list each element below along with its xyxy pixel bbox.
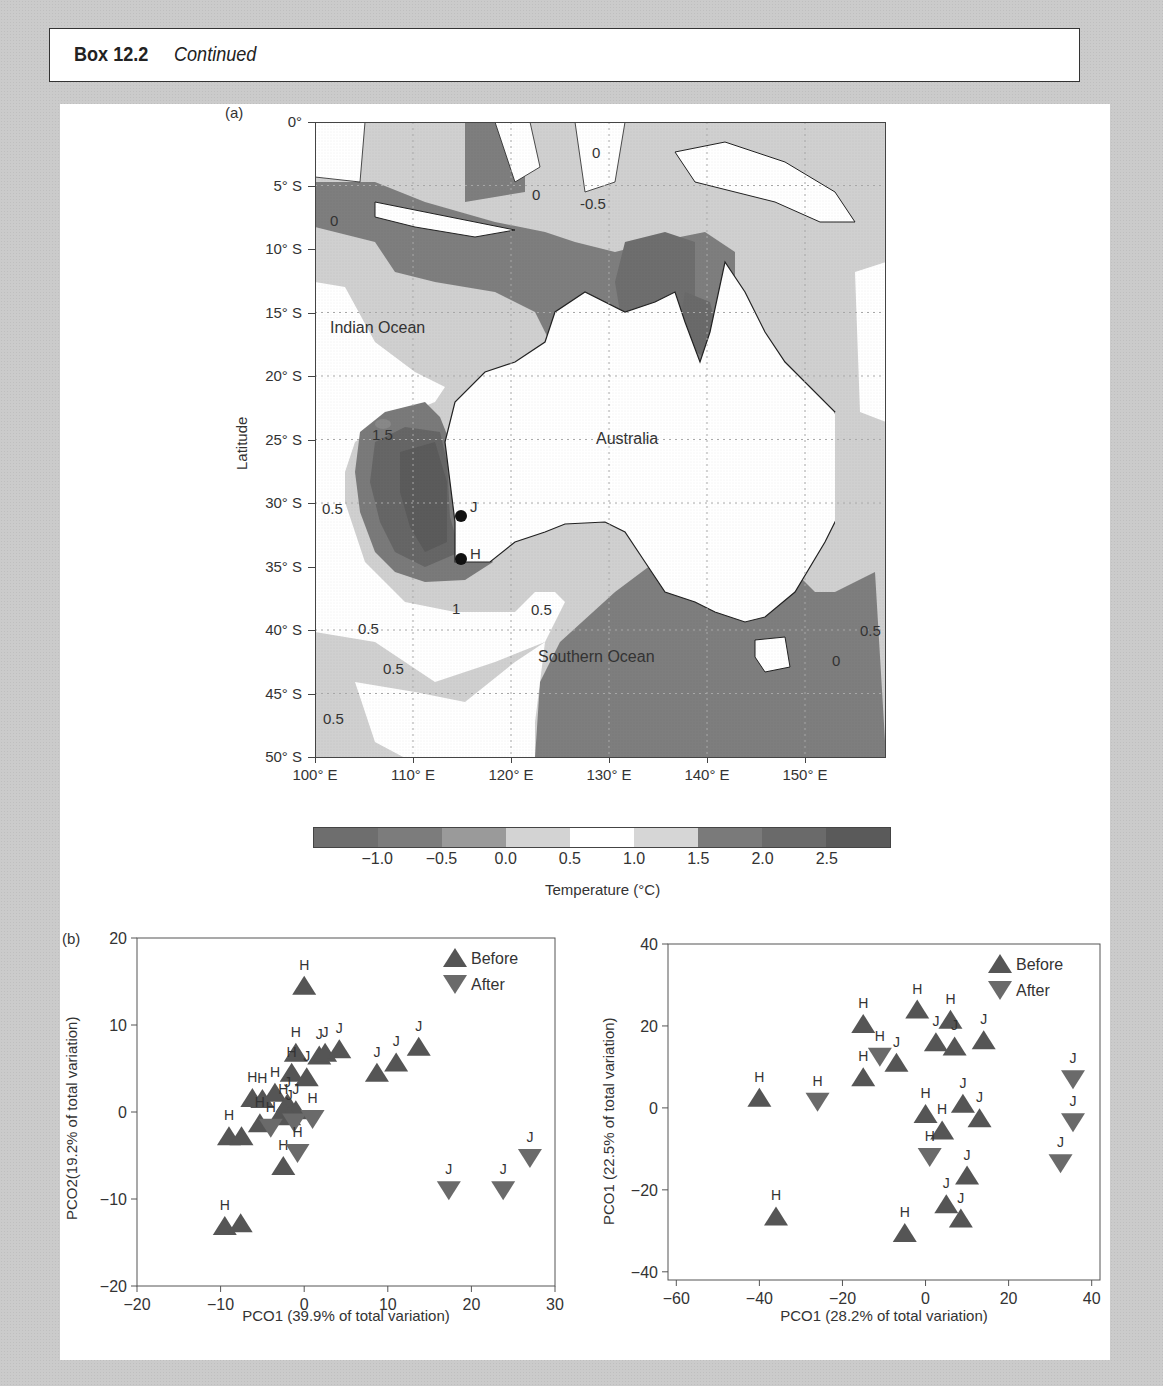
lat-tick-label: 0° [250,113,302,130]
lat-tick-label: 30° S [250,494,302,511]
lat-tick-mark [308,567,315,568]
lat-tick-mark [308,440,315,441]
lat-tick-label: 40° S [250,621,302,638]
label-indian-ocean: Indian Ocean [330,319,425,337]
contour-label: 0.5 [383,660,404,677]
colorbar-swatch [698,828,762,847]
lat-tick-mark [308,757,315,758]
contour-label: 0.5 [358,620,379,637]
lon-tick-label: 100° E [285,766,345,783]
colorbar-tick-label: 1.5 [673,850,723,868]
lat-tick-label: 15° S [250,304,302,321]
site-marker-h [455,553,467,565]
lat-tick-label: 50° S [250,748,302,765]
contour-label: 0 [592,144,600,161]
lat-tick-mark [308,186,315,187]
colorbar-tick-label: 1.0 [609,850,659,868]
colorbar-swatch [378,828,442,847]
box-header: Box 12.2 Continued [49,28,1080,82]
panel-a-label: (a) [225,104,243,121]
site-marker-j [455,510,467,522]
lat-tick-mark [308,694,315,695]
temperature-colorbar [313,827,891,848]
contour-label: 1.5 [372,426,393,443]
lat-tick-mark [308,376,315,377]
box-number: Box 12.2 [74,42,148,66]
box-continued: Continued [174,42,256,66]
lat-tick-label: 5° S [250,177,302,194]
panel-b-label: (b) [62,930,80,947]
contour-label: 0 [330,212,338,229]
lat-tick-mark [308,630,315,631]
lat-tick-mark [308,313,315,314]
lat-tick-mark [308,249,315,250]
colorbar-swatch [762,828,826,847]
contour-label: -0.5 [580,195,606,212]
colorbar-tick-label: 2.0 [738,850,788,868]
site-label-h: H [470,545,481,562]
colorbar-swatch [506,828,570,847]
lat-tick-mark [308,503,315,504]
colorbar-tick-label: 0.5 [545,850,595,868]
colorbar-swatch [634,828,698,847]
label-southern-ocean: Southern Ocean [538,648,655,666]
label-australia: Australia [596,430,658,448]
contour-label: 0.5 [531,601,552,618]
lat-tick-label: 45° S [250,685,302,702]
colorbar-swatch [314,828,378,847]
colorbar-title: Temperature (°C) [545,881,660,898]
lat-tick-label: 10° S [250,240,302,257]
site-label-j: J [470,498,478,515]
colorbar-tick-label: −1.0 [352,850,402,868]
contour-label: 0 [832,652,840,669]
lon-tick-label: 120° E [481,766,541,783]
lon-tick-label: 110° E [383,766,443,783]
lon-tick-label: 150° E [775,766,835,783]
contour-label: 1 [452,600,460,617]
lon-tick-label: 140° E [677,766,737,783]
lat-tick-label: 25° S [250,431,302,448]
lon-tick-label: 130° E [579,766,639,783]
lat-tick-label: 35° S [250,558,302,575]
colorbar-swatch [570,828,634,847]
colorbar-tick-label: −0.5 [416,850,466,868]
colorbar-tick-label: 0.0 [481,850,531,868]
map-ylabel: Latitude [233,417,250,470]
colorbar-swatch [826,828,890,847]
contour-label: 0.5 [323,710,344,727]
colorbar-swatch [442,828,506,847]
contour-label: 0.5 [322,500,343,517]
contour-label: 0 [532,186,540,203]
colorbar-tick-label: 2.5 [802,850,852,868]
contour-label: 0.5 [860,622,881,639]
lat-tick-mark [308,122,315,123]
lat-tick-label: 20° S [250,367,302,384]
